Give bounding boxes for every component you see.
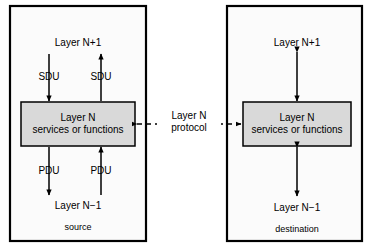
protocol-label-line2: protocol — [159, 122, 219, 134]
source-layer-n-subtitle: services or functions — [32, 124, 123, 136]
source-bottom-layer-label: Layer N−1 — [55, 200, 101, 211]
pdu-up-label: PDU — [90, 165, 111, 176]
destination-layer-n-title: Layer N — [251, 112, 342, 124]
layer-n-protocol-label: Layer N protocol — [157, 110, 221, 133]
source-top-layer-label: Layer N+1 — [55, 37, 101, 48]
destination-top-layer-label: Layer N+1 — [274, 37, 320, 48]
source-layer-n-title: Layer N — [32, 112, 123, 124]
source-container-label: source — [64, 222, 91, 233]
sdu-down-label: SDU — [38, 71, 59, 82]
pdu-down-label: PDU — [38, 165, 59, 176]
destination-layer-n-box-text: Layer N services or functions — [251, 112, 342, 136]
source-layer-n-box-text: Layer N services or functions — [32, 112, 123, 136]
destination-bottom-layer-label: Layer N−1 — [274, 202, 320, 213]
destination-layer-n-subtitle: services or functions — [251, 124, 342, 136]
protocol-layer-diagram: Layer N+1 SDU SDU Layer N services or fu… — [0, 0, 371, 250]
protocol-label-line1: Layer N — [159, 110, 219, 122]
sdu-up-label: SDU — [90, 71, 111, 82]
destination-container-label: destination — [275, 224, 319, 235]
